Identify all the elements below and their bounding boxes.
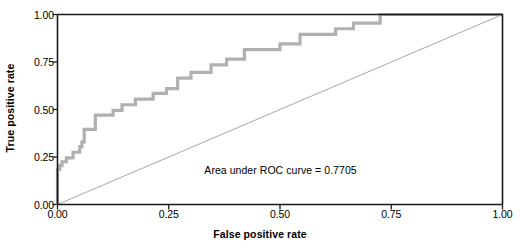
x-tick-label: 0.50 [255,208,305,220]
x-axis-tick-labels: 0.000.250.500.751.00 [0,0,520,250]
x-tick-label: 1.00 [478,208,520,220]
x-tick-label: 0.25 [144,208,194,220]
auc-annotation-text: Area under ROC curve = 0.7705 [204,164,356,176]
x-tick-label: 0.00 [33,208,83,220]
x-tick-label: 0.75 [366,208,416,220]
